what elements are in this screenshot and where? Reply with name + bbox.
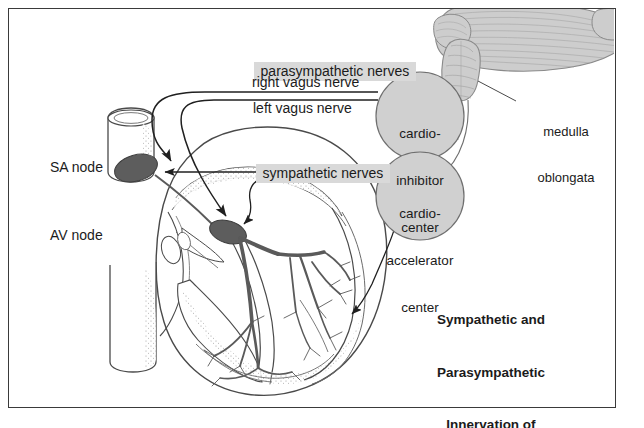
medulla-leader-line (478, 81, 516, 101)
label-av-node: AV node (50, 227, 103, 244)
label-sa-node: SA node (50, 159, 103, 176)
sympathetic-nerves-text: sympathetic nerves (256, 164, 391, 183)
figure-title-line-2: Parasympathetic (406, 364, 576, 382)
medulla-line-2: oblongata (521, 170, 611, 185)
label-left-vagus-nerve: left vagus nerve (253, 100, 352, 117)
cardio-accelerator-line-1: cardio- (372, 206, 468, 222)
cardio-accelerator-line-2: accelerator (372, 253, 468, 269)
medulla-line-1: medulla (521, 124, 611, 139)
figure-title-line-1: Sympathetic and (406, 311, 576, 329)
cardio-inhibitor-line-1: cardio- (376, 126, 464, 142)
figure-title-line-3: Innervation of (406, 416, 576, 428)
label-right-vagus-nerve: right vagus nerve (252, 74, 359, 91)
label-medulla-oblongata: medulla oblongata (521, 93, 611, 216)
label-sympathetic-nerves: sympathetic nerves (240, 148, 390, 198)
figure-title: Sympathetic and Parasympathetic Innervat… (406, 276, 576, 428)
figure-canvas: parasympathetic nerves right vagus nerve… (0, 0, 644, 428)
